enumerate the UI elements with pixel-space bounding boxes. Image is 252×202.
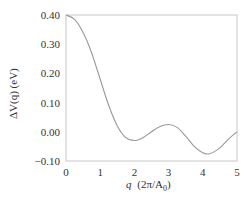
y-tick-label: 0.00	[41, 126, 61, 138]
x-tick-label: 5	[234, 166, 240, 178]
x-tick-label: 4	[200, 166, 206, 178]
x-axis-label: q (2π/A0)	[126, 178, 171, 193]
y-tick-label: 0.40	[41, 9, 61, 21]
x-tick-label: 3	[166, 166, 172, 178]
y-axis-label: ΔV(q) (eV)	[7, 68, 20, 119]
data-line	[66, 15, 237, 154]
y-tick-label: 0.30	[41, 38, 61, 50]
plot-frame	[66, 15, 237, 161]
x-tick-label: 1	[97, 166, 103, 178]
x-axis-ticks: 012345	[63, 166, 240, 178]
y-axis-ticks: 0.400.300.200.100.00−0.10	[35, 9, 61, 167]
y-tick-label: −0.10	[35, 155, 61, 167]
x-tick-label: 0	[63, 166, 69, 178]
y-tick-label: 0.20	[41, 67, 61, 79]
chart-svg: 0.400.300.200.100.00−0.10 012345 q (2π/A…	[0, 0, 252, 202]
x-tick-label: 2	[132, 166, 138, 178]
y-tick-label: 0.10	[41, 97, 61, 109]
